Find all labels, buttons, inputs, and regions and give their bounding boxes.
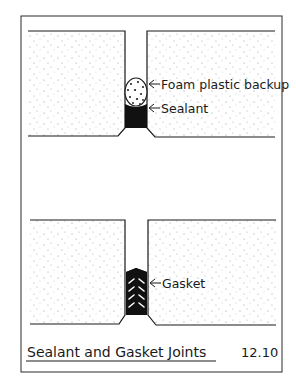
label-foam-backup: Foam plastic backup [161, 77, 289, 92]
label-sealant: Sealant [161, 101, 208, 116]
foam-backup [125, 78, 147, 106]
figure-caption: Sealant and Gasket Joints [27, 344, 206, 360]
label-gasket: Gasket [162, 276, 205, 291]
top-joint: Foam plastic backup Sealant [28, 31, 289, 137]
sealant [125, 104, 147, 128]
left-slab-bottom [30, 220, 125, 324]
diagram-canvas: Foam plastic backup Sealant Gasket Seala… [0, 0, 296, 380]
figure-number: 12.10 [241, 345, 278, 360]
left-slab-top [28, 31, 125, 136]
bottom-joint: Gasket [30, 220, 276, 325]
right-slab-bottom [148, 220, 276, 325]
